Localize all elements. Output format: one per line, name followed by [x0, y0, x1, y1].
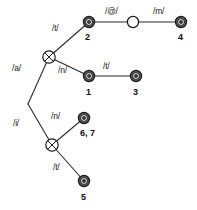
edge-label-schwa: /@/ [105, 7, 118, 16]
node-label-1: 1 [86, 88, 91, 97]
edge-label-t-lower: /t/ [53, 163, 60, 172]
node-label-5: 5 [81, 193, 86, 202]
edge-root-cross1 [28, 57, 49, 104]
edge-label-n-lower: /n/ [51, 112, 60, 121]
edge-label-i: /i/ [13, 119, 19, 128]
node-3-double-circle[interactable] [130, 70, 141, 81]
edge-label-t-middle: /t/ [103, 62, 110, 71]
node-crossed-circle-lower[interactable] [46, 139, 58, 151]
edges-group [28, 22, 181, 181]
edge-root-cross2 [28, 104, 52, 145]
node-67-double-circle[interactable] [78, 112, 89, 123]
diagram-canvas: /a/ /t/ /@/ /m/ /n/ /t/ /i/ /n/ /t/ 2 4 … [0, 0, 197, 210]
edge-label-a: /a/ [12, 64, 21, 73]
node-1-double-circle[interactable] [83, 70, 94, 81]
node-label-4: 4 [178, 33, 183, 42]
node-4-double-circle[interactable] [175, 16, 186, 27]
node-crossed-circle-upper[interactable] [43, 51, 55, 63]
edge-label-m: /m/ [153, 7, 164, 16]
node-label-6-7: 6, 7 [80, 129, 95, 138]
node-label-3: 3 [133, 88, 138, 97]
node-2-double-circle[interactable] [83, 16, 94, 27]
node-5-double-circle[interactable] [78, 175, 89, 186]
edge-label-n-upper: /n/ [58, 66, 67, 75]
graph-svg [0, 0, 197, 210]
nodes-group [43, 16, 187, 186]
node-open-circle[interactable] [127, 16, 138, 27]
edge-label-t-upper: /t/ [52, 24, 59, 33]
node-label-2: 2 [85, 33, 90, 42]
